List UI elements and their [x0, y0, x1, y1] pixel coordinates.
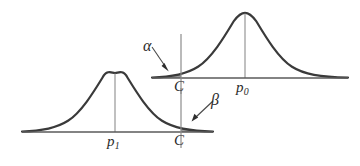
alternative-mean-label: p1 [107, 134, 119, 149]
beta-label: β [211, 92, 219, 108]
alpha-leader-arrow [152, 47, 169, 72]
hypothesis-test-figure: α β C C p0 p1 [0, 0, 360, 166]
critical-value-label-bottom: C [174, 133, 184, 148]
alternative-mean-symbol: p [107, 133, 115, 149]
alternative-mean-subscript: 1 [115, 140, 120, 151]
beta-shaded-region [22, 72, 213, 132]
alpha-label: α [143, 38, 151, 54]
null-mean-label: p0 [236, 80, 248, 95]
beta-leader-arrow [192, 101, 213, 122]
null-mean-symbol: p [236, 79, 244, 95]
critical-value-label-top: C [174, 79, 184, 94]
null-mean-subscript: 0 [244, 86, 249, 97]
alternative-distribution-curve [22, 72, 213, 132]
